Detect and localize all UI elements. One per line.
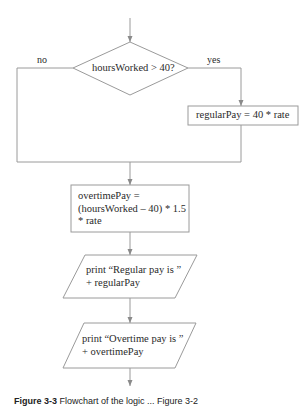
no-branch-label: no [37, 54, 47, 65]
arrowhead-icon [128, 36, 133, 42]
print-regular-statement: print “Regular pay is ” + regularPay [86, 264, 181, 289]
figure-caption-text: Flowchart of the logic ... Figure 3-2 [60, 396, 199, 406]
arrowhead-icon [128, 249, 133, 255]
overtime-pay-statement: overtimePay = (hoursWorked – 40) * 1.5 *… [78, 190, 186, 228]
print-overtime-line-2: + overtimePay [82, 346, 183, 359]
arrowhead-icon [128, 380, 133, 386]
yes-branch-label: yes [207, 54, 220, 65]
overtime-line-3: * rate [78, 215, 186, 228]
decision-condition-text: hoursWorked > 40? [92, 62, 175, 75]
figure-caption-label: Figure 3-3 [14, 396, 57, 406]
arrowhead-icon [128, 317, 133, 323]
overtime-line-1: overtimePay = [78, 190, 186, 203]
yes-branch-connector [188, 68, 241, 106]
figure-caption: Figure 3-3 Flowchart of the logic ... Fi… [14, 396, 198, 406]
regular-pay-statement: regularPay = 40 * rate [196, 109, 289, 122]
print-regular-line-1: print “Regular pay is ” [86, 264, 181, 277]
print-overtime-statement: print “Overtime pay is ” + overtimePay [82, 333, 183, 358]
merge-connector [17, 125, 241, 162]
arrowhead-icon [239, 100, 244, 106]
arrowhead-icon [128, 179, 133, 185]
print-overtime-line-1: print “Overtime pay is ” [82, 333, 183, 346]
overtime-line-2: (hoursWorked – 40) * 1.5 [78, 203, 186, 216]
no-branch-connector [17, 68, 73, 162]
print-regular-line-2: + regularPay [86, 277, 181, 290]
